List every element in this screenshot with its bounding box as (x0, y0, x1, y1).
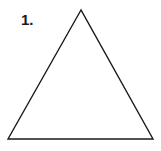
triangle-shape (8, 10, 153, 139)
triangle-diagram (0, 0, 161, 151)
